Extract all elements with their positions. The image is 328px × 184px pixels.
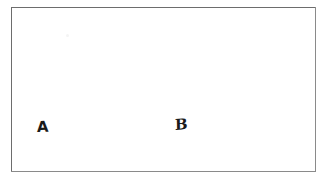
region-label-b: B xyxy=(175,117,188,133)
scan-artifact-speck xyxy=(66,34,69,37)
figure-canvas: A B xyxy=(0,0,328,184)
region-label-a: A xyxy=(37,120,49,135)
diagram-rectangle-outline xyxy=(11,7,316,172)
